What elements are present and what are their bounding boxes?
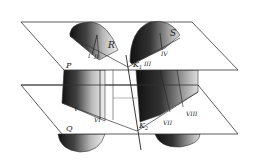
- diagram-canvas: R S P Q I II III IV V VI VII VIII K 1 K …: [0, 0, 256, 161]
- plane-q: [21, 85, 238, 134]
- label-vi: VI: [94, 116, 101, 123]
- label-viii: VIII: [186, 110, 198, 117]
- label-iv: IV: [160, 50, 168, 57]
- svg-text:2: 2: [144, 125, 148, 131]
- label-ii: II: [93, 53, 99, 60]
- surface-s-bottom: [155, 134, 200, 147]
- plane-p: [21, 22, 238, 70]
- label-iii: III: [143, 60, 152, 67]
- label-r: R: [107, 40, 115, 50]
- label-v: V: [74, 105, 79, 112]
- label-vii: VII: [163, 119, 173, 126]
- label-s: S: [170, 28, 176, 38]
- surface-r-bottom: [58, 134, 105, 152]
- svg-text:1: 1: [139, 64, 142, 70]
- label-q: Q: [66, 124, 73, 133]
- label-p: P: [65, 61, 72, 70]
